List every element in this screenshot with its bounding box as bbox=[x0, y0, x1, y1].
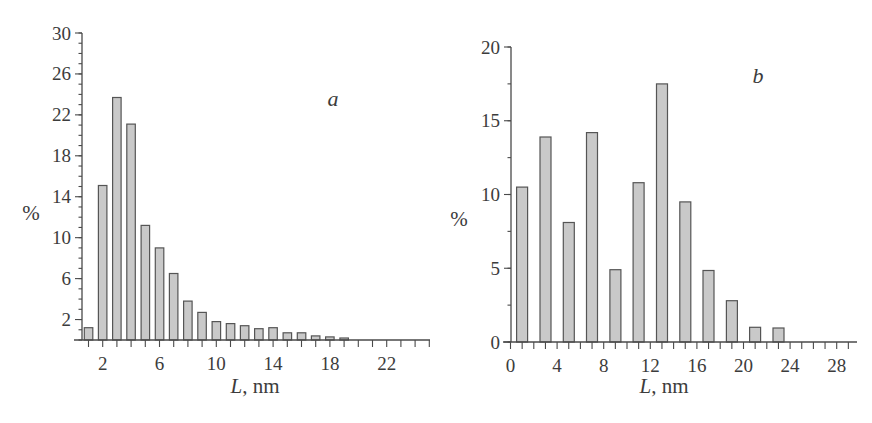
y-tick-label: 15 bbox=[481, 110, 500, 131]
histogram-bar bbox=[680, 202, 691, 342]
y-axis-title: % bbox=[450, 207, 468, 231]
histogram-bar bbox=[269, 328, 278, 340]
histogram-bar bbox=[98, 186, 107, 341]
histogram-bar bbox=[773, 328, 784, 342]
x-tick-label: 14 bbox=[264, 353, 284, 374]
x-axis-variable: L bbox=[638, 374, 651, 398]
y-tick-label: 10 bbox=[481, 184, 500, 205]
x-tick-label: 2 bbox=[98, 353, 108, 374]
figure: 261014182226302610141822%L, nma 05101520… bbox=[0, 0, 872, 423]
histogram-bar bbox=[297, 333, 306, 340]
histogram-bar bbox=[726, 301, 737, 342]
histogram-bar bbox=[587, 133, 598, 342]
y-tick-label: 26 bbox=[52, 63, 71, 84]
y-tick-label: 18 bbox=[52, 145, 71, 166]
histogram-bar bbox=[212, 322, 221, 340]
y-tick-label: 20 bbox=[481, 37, 500, 58]
y-tick-label: 14 bbox=[52, 186, 72, 207]
histogram-bar bbox=[610, 270, 621, 342]
x-tick-label: 18 bbox=[320, 353, 339, 374]
x-tick-label: 0 bbox=[506, 355, 516, 376]
histogram-bar bbox=[540, 137, 551, 342]
bars bbox=[517, 84, 784, 342]
y-axis-title: % bbox=[22, 201, 40, 225]
x-tick-label: 24 bbox=[781, 355, 801, 376]
histogram-bar bbox=[169, 274, 178, 341]
histogram-bar bbox=[517, 187, 528, 342]
y-tick-label: 5 bbox=[491, 258, 501, 279]
histogram-bar bbox=[184, 301, 193, 340]
histogram-bar bbox=[226, 324, 235, 340]
y-tick-label: 6 bbox=[62, 268, 72, 289]
y-tick-label: 30 bbox=[52, 23, 71, 44]
histogram-bar bbox=[255, 329, 264, 340]
x-axis-variable: L bbox=[229, 374, 242, 398]
x-axis-unit: , nm bbox=[242, 374, 279, 398]
x-axis-unit: , nm bbox=[651, 374, 688, 398]
histogram-bar bbox=[84, 328, 93, 340]
x-tick-label: 20 bbox=[734, 355, 753, 376]
histogram-bar bbox=[657, 84, 668, 342]
panel-label: b bbox=[753, 63, 764, 88]
x-tick-label: 28 bbox=[827, 355, 846, 376]
panel-a-histogram: 261014182226302610141822%L, nma bbox=[22, 23, 430, 399]
y-tick-label: 0 bbox=[491, 332, 501, 353]
bars bbox=[84, 98, 348, 341]
y-tick-label: 2 bbox=[62, 309, 72, 330]
y-tick-label: 10 bbox=[52, 227, 71, 248]
x-axis-title: L, nm bbox=[229, 374, 279, 398]
x-tick-label: 12 bbox=[641, 355, 660, 376]
histogram-bar bbox=[113, 98, 122, 341]
histogram-bar bbox=[240, 326, 249, 340]
x-tick-label: 4 bbox=[552, 355, 562, 376]
histogram-bar bbox=[141, 225, 150, 340]
histogram-figure: 261014182226302610141822%L, nma 05101520… bbox=[0, 0, 872, 423]
y-tick-label: 22 bbox=[52, 104, 71, 125]
x-tick-label: 22 bbox=[377, 353, 396, 374]
histogram-bar bbox=[750, 327, 761, 342]
panel-label: a bbox=[328, 86, 339, 111]
x-tick-label: 16 bbox=[687, 355, 706, 376]
histogram-bar bbox=[127, 124, 136, 340]
x-axis-title: L, nm bbox=[638, 374, 688, 398]
histogram-bar bbox=[155, 248, 164, 340]
x-tick-label: 8 bbox=[599, 355, 609, 376]
histogram-bar bbox=[563, 223, 574, 343]
histogram-bar bbox=[633, 183, 644, 342]
panel-b-histogram: 051015200481216202428%L, nmb bbox=[450, 37, 857, 399]
histogram-bar bbox=[198, 312, 207, 340]
histogram-bar bbox=[283, 333, 292, 340]
x-tick-label: 6 bbox=[155, 353, 165, 374]
histogram-bar bbox=[703, 271, 714, 343]
x-tick-label: 10 bbox=[207, 353, 226, 374]
